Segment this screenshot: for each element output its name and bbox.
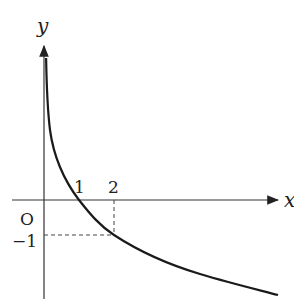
y-axis-label: y [36,14,49,38]
origin-label: O [20,209,34,229]
graph-canvas: y x O 1 2 −1 [0,0,294,299]
tick-label-1: 1 [74,177,85,197]
tick-label-2: 2 [108,177,119,197]
x-axis-label: x [284,188,294,212]
tick-label-neg1: −1 [12,231,37,251]
